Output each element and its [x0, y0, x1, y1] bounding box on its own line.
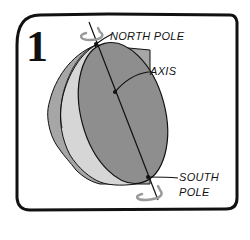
panel-number: 1	[26, 25, 48, 69]
south-pole-label-line2: POLE	[179, 186, 210, 198]
south-pole-label-line1: SOUTH	[179, 171, 219, 183]
north-pole-label: NORTH POLE	[110, 30, 184, 42]
south-rotation-arrow-icon	[137, 186, 162, 200]
axis-label: AXIS	[150, 65, 176, 77]
